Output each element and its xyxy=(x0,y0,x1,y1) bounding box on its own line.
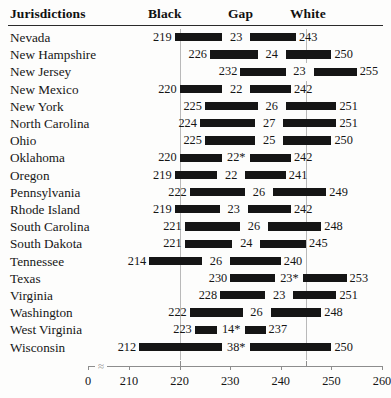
plot-area: Nevada21923243New Hampshire22624250New J… xyxy=(0,29,391,360)
bar-segment-right xyxy=(268,188,326,196)
row-label-jurisdiction: North Carolina xyxy=(10,115,89,132)
value-gap: 25 xyxy=(255,132,283,149)
bar-segment-left xyxy=(230,274,278,282)
bar-segment-right xyxy=(281,102,337,110)
axis-tick-label-250: 250 xyxy=(322,374,340,389)
axis-tick-0 xyxy=(88,366,89,370)
chart-row: North Carolina22427251 xyxy=(0,115,391,132)
value-black: 225 xyxy=(169,98,202,115)
chart-row: New Jersey23223255 xyxy=(0,63,391,80)
value-black: 228 xyxy=(184,287,217,304)
header-divider xyxy=(8,25,383,26)
bar-segment-left xyxy=(220,291,268,299)
value-gap: 23 xyxy=(220,201,248,218)
value-gap: 24 xyxy=(258,46,286,63)
value-gap: 24 xyxy=(232,235,260,252)
value-black: 225 xyxy=(169,132,202,149)
value-black: 224 xyxy=(164,115,197,132)
value-white: 245 xyxy=(309,235,327,252)
value-black: 222 xyxy=(154,304,187,321)
value-black: 232 xyxy=(204,63,237,80)
chart-row: West Virginia22314*237 xyxy=(0,321,391,338)
value-gap: 27 xyxy=(255,115,283,132)
value-gap: 23 xyxy=(286,63,314,80)
value-black: 222 xyxy=(154,184,187,201)
row-label-jurisdiction: Oregon xyxy=(10,167,50,184)
row-label-jurisdiction: South Dakota xyxy=(10,235,82,252)
row-label-jurisdiction: South Carolina xyxy=(10,218,90,235)
row-label-jurisdiction: Oklahoma xyxy=(10,149,65,166)
x-axis: ≈0210220230240250260 xyxy=(0,366,391,398)
axis-break-icon: ≈ xyxy=(98,361,104,372)
column-header-jurisdictions: Jurisdictions xyxy=(10,6,86,22)
column-header-black: Black xyxy=(148,6,182,22)
bar-segment-right xyxy=(266,308,322,316)
value-white: 251 xyxy=(339,115,357,132)
value-black: 214 xyxy=(113,253,146,270)
value-gap: 23 xyxy=(265,287,293,304)
value-gap: 23* xyxy=(275,270,303,287)
value-black: 221 xyxy=(149,235,182,252)
value-white: 249 xyxy=(329,184,347,201)
bar-segment-right xyxy=(245,154,291,162)
value-white: 250 xyxy=(334,132,352,149)
bar-segment-right xyxy=(278,119,336,127)
bar-segment-left xyxy=(190,308,246,316)
value-black: 220 xyxy=(144,149,177,166)
bar-segment-left xyxy=(205,102,261,110)
row-label-jurisdiction: Pennsylvania xyxy=(10,184,80,201)
bar-segment-left xyxy=(200,119,258,127)
bar-segment-right xyxy=(255,240,306,248)
value-white: 241 xyxy=(289,167,307,184)
value-gap: 26 xyxy=(243,304,271,321)
value-white: 248 xyxy=(324,304,342,321)
value-white: 237 xyxy=(269,321,287,338)
bar-segment-right xyxy=(245,33,296,41)
row-label-jurisdiction: Tennessee xyxy=(10,253,64,270)
chart-row: Virginia22823251 xyxy=(0,287,391,304)
bar-segment-left xyxy=(139,343,225,351)
value-white: 250 xyxy=(334,46,352,63)
row-label-jurisdiction: West Virginia xyxy=(10,321,82,338)
value-white: 250 xyxy=(334,339,352,356)
chart-row: Nevada21923243 xyxy=(0,29,391,46)
bar-segment-right xyxy=(288,291,336,299)
chart-row: Ohio22525250 xyxy=(0,132,391,149)
value-gap: 26 xyxy=(202,253,230,270)
value-white: 248 xyxy=(324,218,342,235)
value-gap: 26 xyxy=(245,184,273,201)
bar-segment-left xyxy=(185,222,243,230)
axis-tick-260 xyxy=(382,366,383,370)
value-gap: 26 xyxy=(258,98,286,115)
value-white: 240 xyxy=(284,253,302,270)
column-header-row: Jurisdictions Black Gap White xyxy=(0,6,391,26)
chart-row: South Carolina22126248 xyxy=(0,218,391,235)
value-gap: 22 xyxy=(217,167,245,184)
bar-segment-right xyxy=(309,68,357,76)
bar-segment-left xyxy=(240,68,288,76)
value-gap: 22 xyxy=(222,81,250,98)
bar-segment-left xyxy=(210,50,261,58)
row-label-jurisdiction: Virginia xyxy=(10,287,53,304)
axis-tick-label-0: 0 xyxy=(85,374,91,389)
column-header-white: White xyxy=(290,6,326,22)
value-white: 255 xyxy=(360,63,378,80)
row-label-jurisdiction: Wisconsin xyxy=(10,339,65,356)
axis-tick-230 xyxy=(230,366,231,370)
chart-row: Wisconsin21238*250 xyxy=(0,339,391,356)
chart-row: New Mexico22022242 xyxy=(0,81,391,98)
bar-segment-left xyxy=(180,154,226,162)
value-white: 243 xyxy=(299,29,317,46)
axis-tick-210 xyxy=(129,366,130,370)
axis-tick-up-220 xyxy=(180,361,181,366)
axis-tick-240 xyxy=(281,366,282,370)
value-white: 251 xyxy=(339,287,357,304)
bar-segment-left xyxy=(185,240,236,248)
axis-tick-250 xyxy=(331,366,332,370)
value-black: 219 xyxy=(139,167,172,184)
row-label-jurisdiction: Nevada xyxy=(10,29,50,46)
row-label-jurisdiction: New Hampshire xyxy=(10,46,96,63)
row-label-jurisdiction: Rhode Island xyxy=(10,201,80,218)
value-black: 226 xyxy=(174,46,207,63)
axis-line-zero-segment xyxy=(88,366,95,367)
